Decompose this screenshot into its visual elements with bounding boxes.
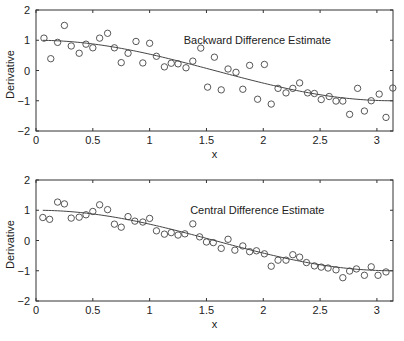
data-point	[225, 66, 231, 72]
data-point	[146, 40, 152, 46]
y-tick-label: 2	[24, 4, 30, 16]
y-tick-label: 1	[24, 34, 30, 46]
data-point	[290, 85, 296, 91]
data-point	[54, 199, 60, 205]
x-tick-label: 0	[33, 134, 39, 146]
data-point	[383, 269, 389, 275]
x-tick-label: 0.5	[85, 134, 100, 146]
data-point	[68, 215, 74, 221]
y-tick-label: −1	[17, 265, 30, 277]
data-point	[54, 39, 60, 45]
x-tick-label: 2.5	[312, 134, 327, 146]
data-point	[175, 232, 181, 238]
data-point	[340, 98, 346, 104]
x-tick-label: 1.5	[199, 304, 214, 316]
y-tick-label: −2	[17, 295, 30, 307]
data-point	[261, 61, 267, 67]
data-point	[268, 101, 274, 107]
x-axis-label: x	[212, 148, 218, 160]
data-point	[361, 272, 367, 278]
data-point	[211, 54, 217, 60]
data-point	[48, 56, 54, 62]
plot-annotation: Backward Difference Estimate	[184, 34, 331, 46]
data-point	[232, 247, 238, 253]
y-tick-label: −2	[17, 125, 30, 137]
data-point	[296, 80, 302, 86]
figure: 00.511.522.53−2−1012xDerivativeBackward …	[0, 0, 404, 341]
data-point	[76, 214, 82, 220]
plot-annotation: Central Difference Estimate	[190, 204, 324, 216]
data-point	[233, 69, 239, 75]
data-point	[204, 84, 210, 90]
data-point	[161, 231, 167, 237]
x-tick-label: 0.5	[85, 304, 100, 316]
data-point	[125, 50, 131, 56]
data-point	[76, 50, 82, 56]
x-tick-label: 2	[260, 134, 266, 146]
data-point	[96, 35, 102, 41]
y-axis-label: Derivative	[4, 220, 16, 269]
data-point	[375, 272, 381, 278]
data-point	[182, 231, 188, 237]
data-point	[118, 59, 124, 65]
data-point	[83, 212, 89, 218]
x-axis-label: x	[212, 318, 218, 330]
data-point	[218, 87, 224, 93]
data-point	[333, 98, 339, 104]
data-point	[61, 22, 67, 28]
data-point	[175, 61, 181, 67]
data-point	[153, 228, 159, 234]
data-point	[318, 96, 324, 102]
data-point	[283, 90, 289, 96]
data-point	[90, 45, 96, 51]
data-point	[183, 65, 189, 71]
y-tick-label: 0	[24, 235, 30, 247]
data-point	[218, 245, 224, 251]
data-point	[203, 239, 209, 245]
data-point	[246, 62, 252, 68]
data-point	[133, 38, 139, 44]
backward-difference-panel: 00.511.522.53−2−1012xDerivativeBackward …	[4, 4, 396, 160]
data-point	[96, 202, 102, 208]
y-axis-label: Derivative	[4, 50, 16, 99]
data-point	[125, 213, 131, 219]
data-point	[254, 96, 260, 102]
data-point	[275, 257, 281, 263]
data-point	[104, 206, 110, 212]
y-tick-label: 2	[24, 174, 30, 186]
x-tick-label: 3	[374, 134, 380, 146]
data-point	[383, 114, 389, 120]
data-point	[40, 214, 46, 220]
x-tick-label: 1.5	[199, 134, 214, 146]
x-tick-label: 1	[147, 304, 153, 316]
data-point	[118, 224, 124, 230]
data-point	[346, 111, 352, 117]
data-point	[240, 86, 246, 92]
x-tick-label: 2.5	[312, 304, 327, 316]
y-tick-label: 1	[24, 204, 30, 216]
data-point	[198, 45, 204, 51]
chart-canvas: 00.511.522.53−2−1012xDerivativeBackward …	[0, 0, 404, 341]
x-tick-label: 2	[260, 304, 266, 316]
data-point	[168, 60, 174, 66]
data-point	[83, 41, 89, 47]
y-tick-label: 0	[24, 65, 30, 77]
data-point	[190, 58, 196, 64]
true-derivative-line	[43, 210, 393, 270]
data-point	[333, 267, 339, 273]
data-point	[290, 252, 296, 258]
y-tick-label: −1	[17, 95, 30, 107]
data-point	[46, 216, 52, 222]
x-tick-label: 1	[147, 134, 153, 146]
data-point	[340, 275, 346, 281]
data-point	[225, 236, 231, 242]
data-point	[168, 229, 174, 235]
data-point	[104, 30, 110, 36]
data-point	[161, 64, 167, 70]
data-point	[376, 91, 382, 97]
central-difference-panel: 00.511.522.53−2−1012xDerivativeCentral D…	[4, 174, 393, 330]
data-point	[68, 43, 74, 49]
data-point	[354, 85, 360, 91]
data-point	[140, 60, 146, 66]
data-point	[190, 221, 196, 227]
